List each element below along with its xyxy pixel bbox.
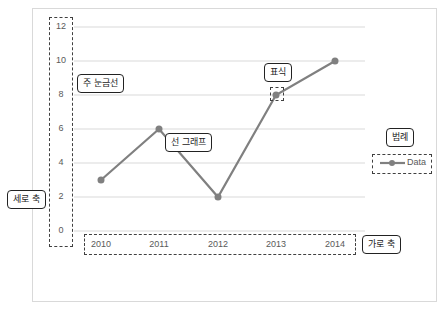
data-point-marker [332, 58, 339, 65]
callout-marker: 표식 [264, 63, 292, 82]
callout-major-gridline: 주 눈금선 [77, 74, 124, 93]
gridlines [74, 27, 365, 231]
callout-line-graph: 선 그래프 [165, 133, 212, 152]
callout-vertical-axis: 세로 축 [7, 190, 46, 209]
legend-label: Data [407, 157, 426, 167]
vertical-axis-highlight [49, 17, 73, 247]
data-point-marker [215, 194, 222, 201]
horizontal-axis-highlight [84, 234, 356, 255]
marker-highlight [270, 87, 284, 101]
data-point-marker [156, 126, 163, 133]
data-point-marker [98, 177, 105, 184]
callout-horizontal-axis: 가로 축 [362, 235, 401, 254]
callout-legend: 범례 [386, 128, 414, 147]
